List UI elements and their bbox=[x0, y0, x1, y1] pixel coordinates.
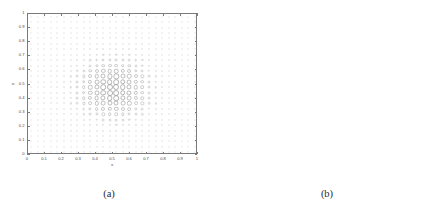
grid-marker bbox=[82, 59, 84, 61]
grid-marker bbox=[168, 119, 170, 121]
x-tick bbox=[129, 152, 130, 155]
grid-marker bbox=[187, 37, 189, 39]
grid-marker bbox=[148, 151, 150, 153]
grid-marker bbox=[89, 54, 91, 56]
grid-marker bbox=[115, 43, 117, 45]
grid-marker bbox=[56, 113, 58, 115]
grid-marker bbox=[168, 113, 170, 115]
grid-marker bbox=[148, 146, 150, 148]
grid-marker bbox=[141, 102, 144, 105]
grid-marker bbox=[30, 119, 32, 121]
grid-marker bbox=[128, 135, 130, 137]
grid-marker bbox=[174, 27, 176, 29]
grid-marker bbox=[155, 124, 157, 126]
grid-marker bbox=[43, 43, 45, 45]
grid-marker bbox=[141, 21, 143, 23]
grid-marker bbox=[89, 124, 91, 126]
grid-marker bbox=[135, 140, 137, 142]
grid-marker bbox=[187, 130, 189, 132]
grid-marker bbox=[50, 140, 52, 142]
grid-marker bbox=[174, 151, 176, 153]
x-tick bbox=[95, 152, 96, 155]
grid-marker bbox=[161, 108, 163, 110]
grid-marker bbox=[181, 97, 183, 99]
grid-marker bbox=[109, 27, 111, 29]
grid-marker bbox=[30, 135, 32, 137]
grid-marker bbox=[141, 54, 143, 56]
grid-marker bbox=[194, 92, 196, 94]
grid-marker bbox=[194, 16, 196, 18]
grid-marker bbox=[135, 119, 137, 121]
grid-marker bbox=[181, 27, 183, 29]
grid-marker bbox=[37, 108, 39, 110]
grid-marker bbox=[114, 101, 119, 106]
grid-marker bbox=[94, 79, 99, 84]
grid-marker bbox=[161, 130, 163, 132]
grid-marker bbox=[76, 32, 78, 34]
grid-marker bbox=[89, 135, 91, 137]
grid-marker bbox=[194, 32, 196, 34]
grid-marker bbox=[168, 130, 170, 132]
grid-marker bbox=[30, 32, 32, 34]
grid-marker bbox=[89, 113, 92, 116]
grid-marker bbox=[30, 59, 32, 61]
x-tick-top bbox=[112, 13, 113, 16]
grid-marker bbox=[148, 135, 150, 137]
grid-marker bbox=[94, 90, 99, 95]
grid-marker bbox=[128, 37, 130, 39]
grid-marker bbox=[50, 86, 52, 88]
grid-marker bbox=[135, 27, 137, 29]
grid-marker bbox=[76, 16, 78, 18]
grid-marker bbox=[101, 101, 106, 106]
grid-marker bbox=[107, 95, 113, 101]
grid-marker bbox=[141, 130, 143, 132]
grid-marker bbox=[102, 43, 104, 45]
y-tick-label: 0.7 bbox=[11, 53, 25, 57]
grid-marker bbox=[102, 53, 104, 55]
grid-marker bbox=[127, 85, 132, 90]
grid-marker bbox=[50, 92, 52, 94]
grid-marker bbox=[135, 54, 137, 56]
grid-marker bbox=[56, 108, 58, 110]
grid-marker bbox=[127, 79, 132, 84]
y-tick-label: 0.4 bbox=[11, 96, 25, 100]
grid-marker bbox=[181, 59, 183, 61]
grid-marker bbox=[168, 124, 170, 126]
grid-marker bbox=[43, 21, 45, 23]
grid-marker bbox=[174, 59, 176, 61]
grid-marker bbox=[134, 107, 137, 110]
grid-marker bbox=[141, 64, 144, 67]
grid-marker bbox=[121, 107, 125, 111]
grid-marker bbox=[30, 151, 32, 153]
grid-marker bbox=[96, 27, 98, 29]
grid-marker bbox=[37, 16, 39, 18]
grid-marker bbox=[63, 59, 65, 61]
grid-marker bbox=[88, 102, 92, 106]
grid-marker bbox=[63, 151, 65, 153]
x-tick bbox=[163, 152, 164, 155]
grid-marker bbox=[135, 151, 137, 153]
grid-marker bbox=[187, 43, 189, 45]
grid-marker bbox=[187, 54, 189, 56]
grid-marker bbox=[69, 91, 71, 93]
grid-marker bbox=[120, 90, 126, 96]
grid-marker bbox=[50, 54, 52, 56]
grid-marker bbox=[174, 43, 176, 45]
grid-marker bbox=[174, 97, 176, 99]
grid-marker bbox=[187, 92, 189, 94]
grid-marker bbox=[83, 119, 85, 121]
grid-marker bbox=[30, 21, 32, 23]
grid-marker bbox=[187, 16, 189, 18]
y-tick-label: 0.8 bbox=[11, 39, 25, 43]
grid-marker bbox=[187, 113, 189, 115]
grid-marker bbox=[109, 21, 111, 23]
grid-marker bbox=[168, 48, 170, 50]
grid-marker bbox=[83, 124, 85, 126]
grid-marker bbox=[181, 21, 183, 23]
grid-marker bbox=[161, 81, 163, 83]
caption-panel-b: (b) bbox=[218, 188, 436, 199]
grid-marker bbox=[141, 107, 144, 110]
grid-marker bbox=[109, 151, 111, 153]
y-tick-label: 1 bbox=[11, 11, 25, 15]
grid-marker bbox=[187, 48, 189, 50]
